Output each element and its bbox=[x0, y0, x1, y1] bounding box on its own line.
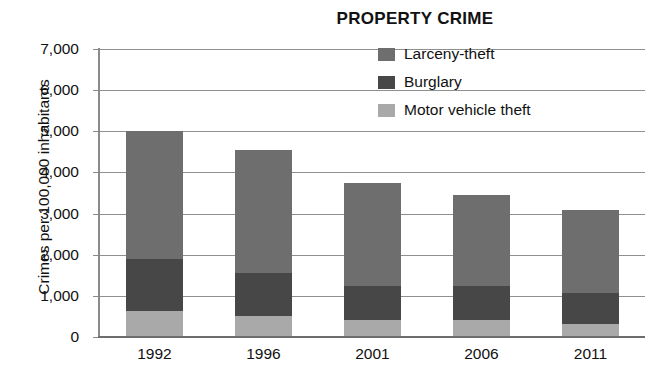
x-axis-tick-label: 1996 bbox=[209, 345, 319, 363]
bar-segment bbox=[126, 259, 183, 311]
bar-stack bbox=[453, 195, 510, 337]
bar-segment bbox=[344, 320, 401, 337]
bar-segment bbox=[562, 293, 619, 324]
y-axis-tick-label: 0 bbox=[0, 328, 79, 346]
bar-segment bbox=[562, 210, 619, 293]
legend-swatch-icon bbox=[378, 76, 395, 89]
bar-segment bbox=[126, 311, 183, 337]
y-axis-tick-label: 2,000 bbox=[0, 246, 79, 264]
chart-title: PROPERTY CRIME bbox=[300, 9, 530, 29]
legend-label: Motor vehicle theft bbox=[404, 102, 531, 118]
legend-item: Larceny-theft bbox=[378, 41, 648, 67]
y-axis-tick-label: 5,000 bbox=[0, 122, 79, 140]
bar-segment bbox=[453, 286, 510, 320]
bar-stack bbox=[235, 150, 292, 337]
y-axis-tick-label: 1,000 bbox=[0, 287, 79, 305]
legend-swatch-icon bbox=[378, 48, 395, 61]
bar-group bbox=[126, 49, 183, 337]
bar-segment bbox=[126, 131, 183, 259]
bar-segment bbox=[453, 320, 510, 337]
bar-group bbox=[235, 49, 292, 337]
bar-segment bbox=[344, 286, 401, 319]
y-axis-tick-label: 3,000 bbox=[0, 205, 79, 223]
bar-stack bbox=[562, 210, 619, 337]
bar-stack bbox=[344, 183, 401, 337]
bar-segment bbox=[235, 150, 292, 273]
x-axis-tick-label: 2001 bbox=[318, 345, 428, 363]
bar-segment bbox=[453, 195, 510, 286]
bar-stack bbox=[126, 131, 183, 337]
y-axis-tick-label: 6,000 bbox=[0, 81, 79, 99]
bar-segment bbox=[235, 273, 292, 315]
legend-item: Burglary bbox=[378, 69, 648, 95]
y-axis-tick-label: 7,000 bbox=[0, 40, 79, 58]
x-axis-tick-label: 2006 bbox=[427, 345, 537, 363]
legend-label: Larceny-theft bbox=[404, 46, 494, 62]
bar-segment bbox=[235, 316, 292, 337]
y-axis-line bbox=[98, 48, 100, 337]
chart-legend: Larceny-theftBurglaryMotor vehicle theft bbox=[378, 41, 648, 125]
legend-label: Burglary bbox=[404, 74, 462, 90]
property-crime-chart: PROPERTY CRIME Crimes per 100,000 inhabi… bbox=[0, 0, 662, 386]
x-axis-tick-label: 1992 bbox=[100, 345, 210, 363]
bar-segment bbox=[344, 183, 401, 287]
x-axis-tick-label: 2011 bbox=[536, 345, 646, 363]
legend-item: Motor vehicle theft bbox=[378, 97, 648, 123]
x-axis-line bbox=[98, 336, 645, 338]
y-axis-tick-label: 4,000 bbox=[0, 163, 79, 181]
legend-swatch-icon bbox=[378, 104, 395, 117]
